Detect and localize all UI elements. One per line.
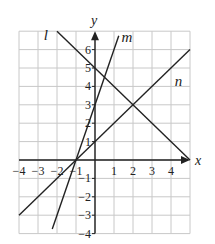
- line-l: [57, 31, 190, 160]
- x-tick-label: −3: [32, 164, 45, 178]
- y-tick-label: 4: [85, 79, 91, 93]
- x-tick-label: 4: [168, 164, 174, 178]
- line-label-m: m: [122, 29, 133, 45]
- line-n: [19, 50, 190, 216]
- x-tick-label: −4: [13, 164, 26, 178]
- coordinate-graph: xy −4−3−2−11234−4−3−2−1123456 lmn: [0, 0, 215, 244]
- plotted-lines: [19, 31, 190, 229]
- line-label-l: l: [44, 27, 48, 43]
- y-tick-label: −4: [78, 227, 91, 241]
- x-tick-label: 1: [111, 164, 117, 178]
- y-tick-label: −3: [78, 208, 91, 222]
- line-labels: lmn: [44, 27, 183, 89]
- y-tick-label: 3: [85, 98, 91, 112]
- y-tick-label: −2: [78, 190, 91, 204]
- x-tick-label: −2: [51, 164, 64, 178]
- x-tick-label: 2: [130, 164, 136, 178]
- x-tick-label: 3: [149, 164, 155, 178]
- x-axis-arrow-icon: [181, 156, 190, 164]
- y-tick-label: 6: [85, 43, 91, 57]
- line-label-n: n: [175, 73, 183, 89]
- x-axis-label: x: [194, 153, 202, 168]
- y-axis-arrow-icon: [91, 31, 99, 40]
- y-axis-label: y: [89, 13, 98, 28]
- y-tick-label: −1: [78, 171, 91, 185]
